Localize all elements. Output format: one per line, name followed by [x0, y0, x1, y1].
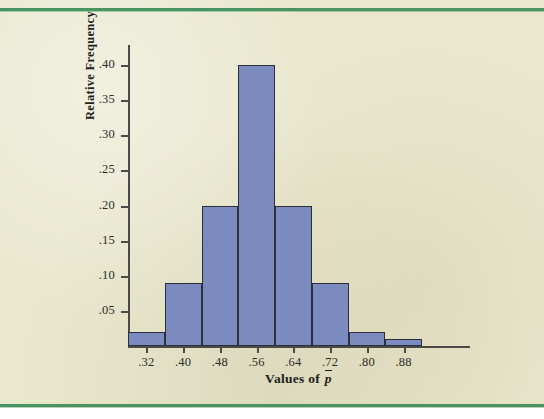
- histogram-bar: [275, 206, 312, 346]
- p-bar-symbol: p: [324, 371, 333, 387]
- y-tick: .15: [121, 241, 130, 243]
- x-tick: [257, 346, 259, 353]
- histogram-bar: [238, 65, 275, 346]
- histogram-figure: Relative Frequency .05.10.15.20.25.30.35…: [0, 0, 544, 419]
- x-tick: [330, 346, 332, 353]
- y-axis-line: [128, 45, 130, 348]
- top-rule: [0, 8, 544, 11]
- y-tick-label: .40: [99, 57, 115, 72]
- y-tick: .10: [121, 276, 130, 278]
- histogram-bar: [312, 283, 349, 346]
- x-axis-title: Values of p: [128, 371, 470, 387]
- bottom-rule: [0, 404, 544, 407]
- x-tick-label: .80: [359, 355, 375, 370]
- y-tick: .40: [121, 65, 130, 67]
- x-tick-label: .56: [249, 355, 265, 370]
- y-tick: .30: [121, 135, 130, 137]
- y-tick: .20: [121, 206, 130, 208]
- x-tick: [183, 346, 185, 353]
- y-tick-label: .10: [99, 268, 115, 283]
- y-tick-label: .30: [99, 127, 115, 142]
- x-tick-label: .32: [138, 355, 154, 370]
- y-tick-label: .20: [99, 198, 115, 213]
- histogram-bar: [385, 339, 422, 346]
- histogram-bar: [128, 332, 165, 346]
- x-tick: [404, 346, 406, 353]
- plot-area: .05.10.15.20.25.30.35.40 .32.40.48.56.64…: [128, 45, 470, 348]
- x-tick: [367, 346, 369, 353]
- y-tick-label: .25: [99, 162, 115, 177]
- y-tick-label: .15: [99, 233, 115, 248]
- y-tick: .35: [121, 100, 130, 102]
- x-tick: [146, 346, 148, 353]
- y-tick-label: .05: [99, 303, 115, 318]
- histogram-bar: [165, 283, 202, 346]
- x-tick-label: .88: [396, 355, 412, 370]
- x-tick: [293, 346, 295, 353]
- x-tick-label: .40: [175, 355, 191, 370]
- y-axis-title: Relative Frequency: [83, 102, 98, 120]
- y-tick: .25: [121, 170, 130, 172]
- y-tick-label: .35: [99, 92, 115, 107]
- x-tick: [220, 346, 222, 353]
- y-tick: .05: [121, 311, 130, 313]
- histogram-bar: [202, 206, 239, 346]
- histogram-bar: [349, 332, 386, 346]
- x-axis-line: [128, 346, 470, 348]
- x-tick-label: .72: [322, 355, 338, 370]
- x-tick-label: .48: [212, 355, 228, 370]
- x-tick-label: .64: [285, 355, 301, 370]
- x-axis-title-text: Values of: [265, 371, 324, 386]
